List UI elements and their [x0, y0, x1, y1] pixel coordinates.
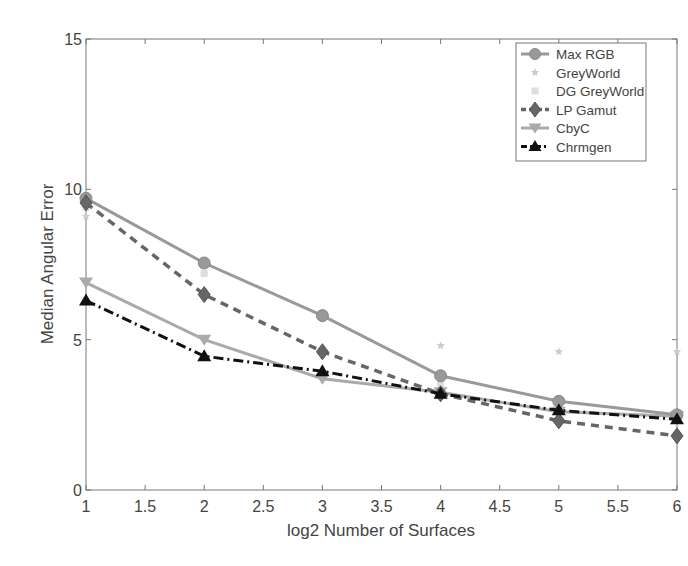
series-dg-greyworld [83, 204, 681, 421]
x-axis-label: log2 Number of Surfaces [287, 521, 475, 540]
series-line [86, 203, 677, 436]
circle-marker-icon [530, 49, 541, 60]
y-tick-label: 10 [64, 181, 82, 198]
x-tick-label: 1.5 [134, 498, 156, 515]
triangle-up-marker-icon [79, 294, 93, 306]
legend: Max RGBGreyWorldDG GreyWorldLP GamutCbyC… [516, 43, 646, 161]
legend-label: CbyC [556, 121, 590, 136]
x-tick-label: 4 [436, 498, 445, 515]
legend-label: LP Gamut [556, 103, 617, 118]
diamond-marker-icon [671, 428, 683, 444]
diamond-marker-icon [198, 287, 210, 303]
series-cbyc [79, 278, 684, 423]
x-tick-label: 5.5 [607, 498, 629, 515]
legend-item: Max RGB [521, 47, 615, 62]
x-tick-label: 6 [673, 498, 682, 515]
circle-marker-icon [435, 370, 447, 382]
series-lines [79, 192, 684, 444]
series-line [86, 283, 677, 417]
x-tick-label: 1 [82, 498, 91, 515]
square-marker-icon [532, 88, 539, 95]
triangle-down-marker-icon [79, 278, 93, 289]
x-tick-label: 5 [554, 498, 563, 515]
x-tick-label: 3.5 [370, 498, 392, 515]
series-line [86, 301, 677, 420]
x-tick-label: 2.5 [252, 498, 274, 515]
y-tick-label: 15 [64, 31, 82, 48]
series-greyworld [82, 212, 682, 355]
legend-item: LP Gamut [521, 102, 617, 118]
legend-label: Max RGB [556, 47, 615, 62]
star-marker-icon [436, 341, 445, 349]
diamond-marker-icon [316, 344, 328, 360]
star-marker-icon [555, 347, 564, 355]
y-axis-label: Median Angular Error [38, 183, 57, 344]
x-tick-label: 4.5 [489, 498, 511, 515]
circle-marker-icon [198, 257, 210, 269]
x-tick-label: 2 [200, 498, 209, 515]
x-tick-label: 3 [318, 498, 327, 515]
y-tick-label: 5 [73, 332, 82, 349]
y-tick-label: 0 [73, 482, 82, 499]
legend-label: GreyWorld [556, 66, 620, 81]
circle-marker-icon [316, 310, 328, 322]
square-marker-icon [201, 270, 208, 277]
legend-label: DG GreyWorld [556, 84, 644, 99]
legend-label: Chrmgen [556, 140, 612, 155]
line-chart: 11.522.533.544.555.56051015 Max RGBGreyW… [0, 0, 688, 566]
